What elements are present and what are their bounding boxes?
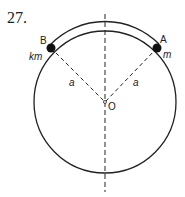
label-mass-b: km — [29, 51, 42, 62]
label-radius-left: a — [69, 77, 75, 88]
label-mass-a: m — [163, 49, 171, 60]
radius-right — [105, 48, 157, 102]
center-point — [104, 101, 107, 104]
radius-left — [51, 48, 105, 102]
label-a: A — [160, 34, 167, 45]
particle-b — [47, 44, 56, 53]
label-radius-right: a — [133, 77, 139, 88]
circle-diagram: B A km m a a O — [0, 0, 185, 197]
label-b: B — [40, 35, 47, 46]
label-center: O — [108, 101, 116, 112]
